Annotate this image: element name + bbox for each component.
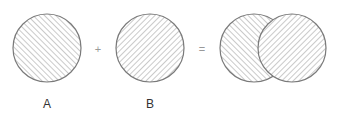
label-a: A xyxy=(43,97,51,111)
label-b: B xyxy=(146,97,154,111)
equals-operator: = xyxy=(199,43,205,55)
result-circle-b xyxy=(258,14,326,82)
set-union-diagram xyxy=(0,0,341,122)
circle-b xyxy=(116,14,184,82)
union-result xyxy=(220,14,326,82)
circle-a xyxy=(13,14,81,82)
plus-operator: + xyxy=(95,43,101,55)
